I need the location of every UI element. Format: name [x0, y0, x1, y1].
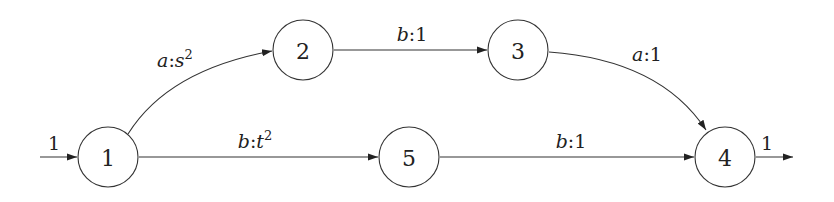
state-label: 5	[402, 146, 416, 171]
final-arrow: 1	[756, 132, 793, 157]
state-node-1: 1	[78, 127, 138, 187]
state-node-5: 5	[379, 127, 439, 187]
edge-1-to-2: a:s2	[128, 47, 272, 134]
initial-weight-label: 1	[48, 132, 60, 154]
state-node-3: 3	[488, 20, 548, 80]
edge-label-1-2: a:s2	[157, 47, 193, 71]
automaton-diagram: 1 1 a:s2 b:1 a:1 b:t2 b:1 1 2 3	[0, 0, 834, 202]
edge-2-to-3: b:1	[334, 23, 487, 50]
state-label: 1	[101, 146, 115, 171]
state-node-2: 2	[273, 20, 333, 80]
edge-1-to-5: b:t2	[139, 128, 378, 157]
final-weight-label: 1	[761, 132, 773, 154]
edge-3-to-4: a:1	[549, 43, 706, 130]
state-label: 3	[511, 39, 525, 64]
edge-5-to-4: b:1	[440, 130, 694, 157]
initial-arrow: 1	[40, 132, 77, 157]
edge-label-3-4: a:1	[632, 43, 662, 65]
state-label: 2	[296, 39, 310, 64]
edge-label-1-5: b:t2	[238, 128, 273, 152]
edge-label-2-3: b:1	[397, 23, 428, 45]
edge-label-5-4: b:1	[556, 130, 587, 152]
state-label: 4	[718, 146, 732, 171]
state-node-4: 4	[695, 127, 755, 187]
